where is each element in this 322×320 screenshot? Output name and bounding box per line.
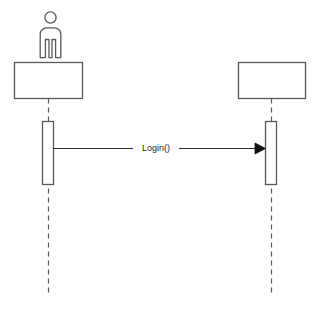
activation-bar-actor[interactable] xyxy=(43,122,54,185)
actor-body-icon xyxy=(40,28,61,58)
actor-person-icon xyxy=(40,12,61,58)
actor-head-icon xyxy=(45,12,56,23)
diagram-canvas: Login() xyxy=(0,0,322,320)
message-login-arrowhead-icon xyxy=(255,143,266,154)
lifeline-box-system[interactable] xyxy=(239,63,306,99)
sequence-diagram: Login() xyxy=(0,0,322,320)
activation-bar-system[interactable] xyxy=(266,122,277,185)
lifeline-box-actor[interactable] xyxy=(15,63,83,99)
message-login-label: Login() xyxy=(142,143,170,153)
participant-actor[interactable] xyxy=(15,63,83,296)
message-login[interactable]: Login() xyxy=(53,143,266,154)
participant-system[interactable] xyxy=(239,63,306,296)
